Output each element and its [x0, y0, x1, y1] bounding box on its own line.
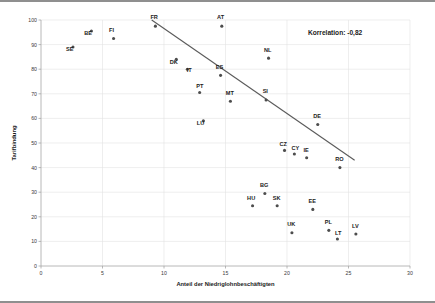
data-point [311, 208, 314, 211]
data-point [251, 204, 254, 207]
x-tick-label: 15 [223, 270, 229, 276]
data-point-label: SI [263, 88, 269, 94]
x-tick-label: 30 [407, 270, 413, 276]
data-point-label: DK [170, 59, 178, 65]
data-point-label: IE [303, 147, 309, 153]
y-tick-label: 70 [31, 91, 37, 97]
y-tick-label: 50 [31, 140, 37, 146]
data-point [265, 98, 268, 101]
y-axis-title-text: Tarifbindung [11, 125, 17, 160]
data-point [112, 37, 115, 40]
data-point-label: CZ [279, 141, 287, 147]
data-point-label: SE [66, 46, 74, 52]
data-point [290, 231, 293, 234]
y-tick-label: 60 [31, 115, 37, 121]
plot-canvas: 0102030405060708090100051015202530SEBEFI… [0, 0, 435, 303]
data-point-label: FI [109, 27, 114, 33]
data-point [305, 156, 308, 159]
data-point-label: SK [273, 195, 281, 201]
y-tick-label: 80 [31, 66, 37, 72]
data-point [229, 100, 232, 103]
data-point [293, 153, 296, 156]
y-tick-label: 90 [31, 42, 37, 48]
y-tick-label: 100 [28, 17, 37, 23]
data-point [263, 192, 266, 195]
x-tick-label: 25 [346, 270, 352, 276]
data-point [267, 57, 270, 60]
data-point-label: RO [335, 156, 344, 162]
y-tick-label: 30 [31, 189, 37, 195]
data-point [354, 232, 357, 235]
data-point [219, 74, 222, 77]
data-point-label: CY [291, 145, 299, 151]
x-tick-label: 5 [101, 270, 104, 276]
y-tick-label: 0 [34, 263, 37, 269]
trendline [152, 20, 355, 160]
data-point-label: UK [287, 221, 295, 227]
data-point-label: IT [187, 67, 193, 73]
data-point-label: NL [264, 47, 272, 53]
data-point-label: PL [325, 219, 333, 225]
data-point [276, 204, 279, 207]
data-point [338, 166, 341, 169]
data-point-label: PT [196, 83, 204, 89]
data-point [220, 25, 223, 28]
data-point-label: DE [313, 113, 321, 119]
data-point-label: BG [260, 182, 268, 188]
y-tick-label: 10 [31, 238, 37, 244]
data-point [283, 149, 286, 152]
data-point [327, 229, 330, 232]
data-point-label: HU [247, 195, 255, 201]
chart-figure: 0102030405060708090100051015202530SEBEFI… [0, 0, 435, 303]
correlation-text: Korrelation: -0,82 [308, 29, 363, 37]
data-point-label: EE [308, 198, 316, 204]
scatter-plot: 0102030405060708090100051015202530SEBEFI… [0, 0, 435, 303]
data-point-label: LU [197, 120, 204, 126]
x-axis-title-text: Anteil der Niedriglohnbeschäftigten [176, 281, 275, 287]
data-point-label: LT [335, 230, 342, 236]
data-point-label: BE [84, 30, 92, 36]
data-point-label: ES [216, 64, 224, 70]
data-point [154, 25, 157, 28]
data-point-label: LV [352, 223, 359, 229]
y-tick-label: 40 [31, 165, 37, 171]
data-point [336, 237, 339, 240]
data-point-label: MT [226, 90, 235, 96]
y-tick-label: 20 [31, 214, 37, 220]
x-tick-label: 10 [161, 270, 167, 276]
data-point [316, 123, 319, 126]
x-tick-label: 0 [40, 270, 43, 276]
data-point-label: AT [217, 14, 225, 20]
data-point [198, 91, 201, 94]
x-tick-label: 20 [284, 270, 290, 276]
data-point-label: FR [150, 14, 157, 20]
